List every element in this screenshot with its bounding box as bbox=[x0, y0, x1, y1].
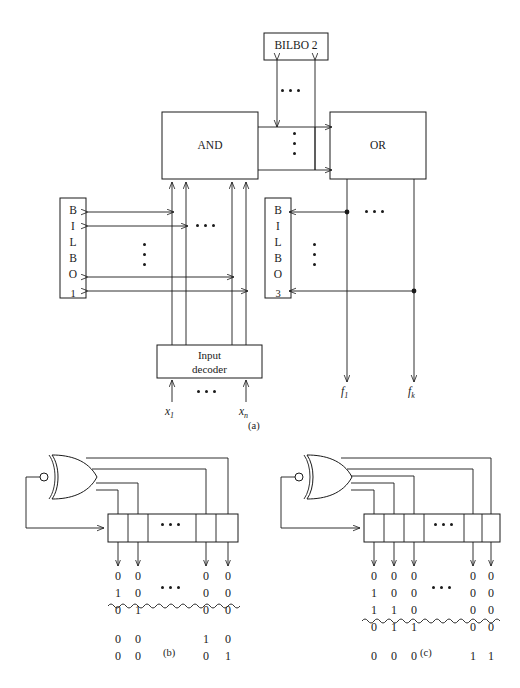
bit-cell: 0 bbox=[466, 621, 480, 633]
bit-cell: 0 bbox=[484, 587, 498, 599]
tap-c-5 bbox=[341, 458, 491, 514]
bit-cell: 1 bbox=[367, 587, 381, 599]
bit-cell: 1 bbox=[407, 621, 421, 633]
inversion-bubble-c bbox=[295, 473, 303, 481]
bit-cell: 1 bbox=[367, 604, 381, 616]
bit-cell: 0 bbox=[367, 570, 381, 582]
panel-c-label: (c) bbox=[420, 648, 432, 659]
bit-cell: 0 bbox=[367, 621, 381, 633]
bit-cell: 0 bbox=[367, 650, 381, 662]
bit-cell: 1 bbox=[387, 604, 401, 616]
tap-c-3 bbox=[351, 476, 414, 514]
bit-cell: 0 bbox=[466, 587, 480, 599]
xnor-gate-c bbox=[307, 455, 352, 499]
ellipsis-register-c bbox=[434, 523, 453, 526]
bit-cell: 0 bbox=[466, 570, 480, 582]
bit-cell: 0 bbox=[484, 621, 498, 633]
bit-cell: 0 bbox=[407, 650, 421, 662]
bit-cell: 0 bbox=[387, 650, 401, 662]
bit-cell: 0 bbox=[407, 604, 421, 616]
panel-c-graphics bbox=[0, 0, 520, 688]
bit-cell: 0 bbox=[387, 570, 401, 582]
bit-cell: 1 bbox=[387, 621, 401, 633]
tap-c-2 bbox=[351, 483, 394, 514]
bit-cell: 1 bbox=[466, 650, 480, 662]
figure-page: BILBO 2 AND OR Input decoder B I L B O 1… bbox=[0, 0, 520, 688]
bit-cell: 1 bbox=[484, 650, 498, 662]
figure-caption bbox=[0, 676, 520, 688]
xnor-gate-c-arc bbox=[304, 455, 310, 499]
bit-cell: 0 bbox=[407, 570, 421, 582]
ellipsis-bits-c bbox=[432, 586, 451, 589]
bit-cell: 0 bbox=[484, 604, 498, 616]
tap-c-1 bbox=[351, 490, 374, 514]
bit-cell: 0 bbox=[484, 570, 498, 582]
bit-cell: 0 bbox=[466, 604, 480, 616]
bit-cell: 0 bbox=[387, 587, 401, 599]
bit-cell: 0 bbox=[407, 587, 421, 599]
